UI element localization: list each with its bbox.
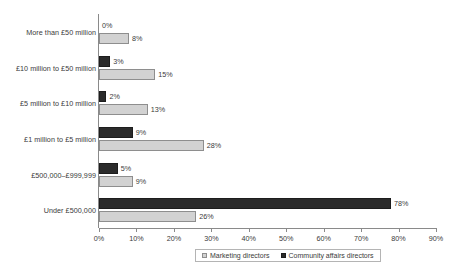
bar-value-label: 8% <box>132 33 142 44</box>
x-axis-tick-label: 50% <box>279 234 293 243</box>
bar-value-label: 28% <box>207 140 221 151</box>
x-axis-tick-label: 80% <box>391 234 405 243</box>
legend-label: Marketing directors <box>210 252 270 259</box>
x-axis-tick <box>99 228 100 232</box>
bar <box>99 211 196 222</box>
bar <box>99 176 133 187</box>
legend-swatch-icon <box>202 253 207 258</box>
x-axis-tick-label: 90% <box>429 234 443 243</box>
legend-swatch-icon <box>281 253 286 258</box>
bar <box>99 127 133 138</box>
x-axis-tick <box>324 228 325 232</box>
bar-value-label: 0% <box>102 20 112 31</box>
bar <box>99 91 106 102</box>
bar-value-label: 9% <box>136 176 146 187</box>
x-axis-tick <box>211 228 212 232</box>
x-axis: 0%10%20%30%40%50%60%70%80%90% <box>99 228 436 229</box>
bar <box>99 140 204 151</box>
chart-legend: Marketing directorsCommunity affairs dir… <box>195 249 381 262</box>
bar <box>99 104 148 115</box>
bar-group: 5%9% <box>99 157 436 193</box>
bar-value-label: 3% <box>113 56 123 67</box>
x-axis-tick-label: 30% <box>204 234 218 243</box>
category-label: £5 million to £10 million <box>0 99 96 108</box>
category-label: £500,000–£999,999 <box>0 170 96 179</box>
bar-group: 9%28% <box>99 121 436 157</box>
bar-group: 2%13% <box>99 85 436 121</box>
category-label: More than £50 million <box>0 27 96 36</box>
category-axis-labels: More than £50 million£10 million to £50 … <box>0 14 96 228</box>
category-label: £1 million to £5 million <box>0 134 96 143</box>
bar <box>99 163 118 174</box>
category-label: Under £500,000 <box>0 206 96 215</box>
bar-value-label: 2% <box>109 91 119 102</box>
bar-chart: More than £50 million£10 million to £50 … <box>0 0 458 274</box>
category-label: £10 million to £50 million <box>0 63 96 72</box>
bar-value-label: 9% <box>136 127 146 138</box>
x-axis-tick <box>174 228 175 232</box>
x-axis-tick-label: 40% <box>242 234 256 243</box>
legend-item[interactable]: Marketing directors <box>202 252 270 259</box>
x-axis-tick-label: 20% <box>167 234 181 243</box>
bar-value-label: 78% <box>394 198 408 209</box>
x-axis-tick <box>436 228 437 232</box>
bar <box>99 56 110 67</box>
legend-label: Community affairs directors <box>289 252 374 259</box>
bar <box>99 198 391 209</box>
x-axis-tick <box>249 228 250 232</box>
x-axis-tick <box>136 228 137 232</box>
bar-group: 3%15% <box>99 50 436 86</box>
x-axis-tick <box>361 228 362 232</box>
bar-value-label: 13% <box>151 104 165 115</box>
x-axis-tick-label: 70% <box>354 234 368 243</box>
x-axis-tick <box>399 228 400 232</box>
legend-item[interactable]: Community affairs directors <box>281 252 374 259</box>
bar <box>99 69 155 80</box>
bar-group: 78%26% <box>99 192 436 228</box>
bar-value-label: 5% <box>121 163 131 174</box>
bar <box>99 33 129 44</box>
bar-value-label: 15% <box>158 69 172 80</box>
x-axis-tick-label: 10% <box>129 234 143 243</box>
x-axis-tick-label: 0% <box>94 234 104 243</box>
x-axis-tick-label: 60% <box>316 234 330 243</box>
bar-value-label: 26% <box>199 211 213 222</box>
plot-area: 0%8%3%15%2%13%9%28%5%9%78%26% <box>99 14 436 228</box>
bar-group: 0%8% <box>99 14 436 50</box>
x-axis-tick <box>286 228 287 232</box>
